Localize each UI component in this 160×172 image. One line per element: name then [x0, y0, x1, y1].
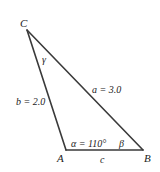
vertex-b-label: B — [144, 153, 151, 164]
side-a-label: a = 3.0 — [92, 85, 121, 95]
angle-gamma-label: γ — [42, 55, 46, 65]
side-b-label: b = 2.0 — [16, 97, 45, 107]
vertex-a-label: A — [57, 153, 64, 164]
side-b-line — [27, 30, 66, 150]
angle-beta-label: β — [119, 139, 124, 149]
side-a-line — [27, 30, 143, 150]
vertex-c-label: C — [20, 18, 27, 29]
side-c-label: c — [100, 155, 104, 165]
angle-alpha-label: α = 110° — [71, 139, 106, 149]
